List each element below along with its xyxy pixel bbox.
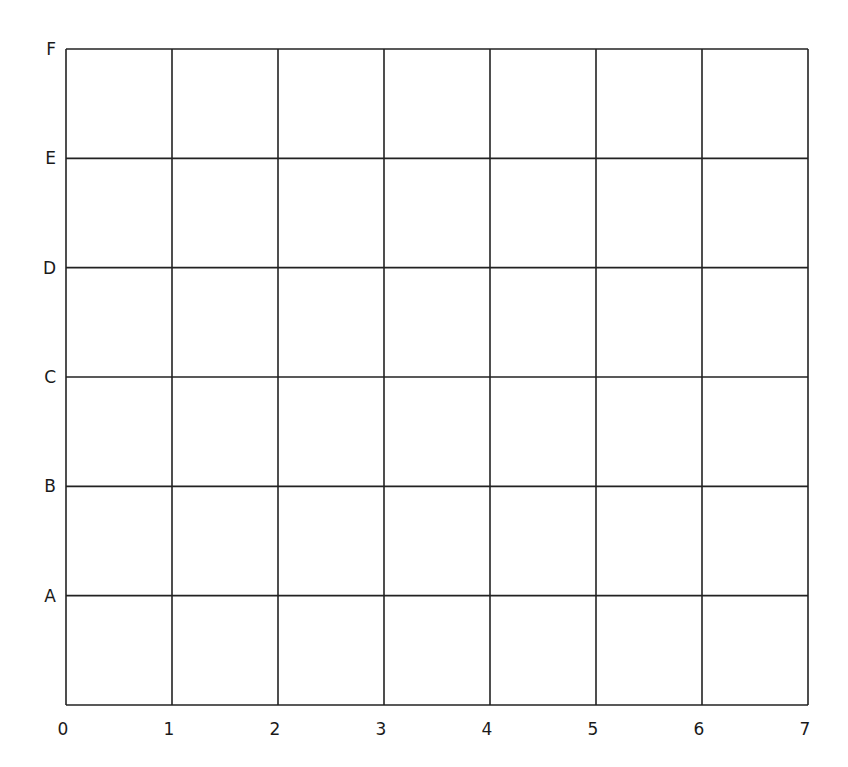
y-axis-label: B — [44, 478, 56, 495]
y-axis-label: A — [44, 587, 56, 604]
y-axis-label: E — [45, 150, 56, 167]
x-axis-label: 4 — [482, 721, 493, 738]
x-axis-label: 0 — [58, 721, 69, 738]
x-axis-label: 3 — [376, 721, 387, 738]
x-axis-label: 7 — [800, 721, 811, 738]
y-axis-label: F — [46, 41, 56, 58]
x-axis-label: 6 — [694, 721, 705, 738]
x-axis-label: 5 — [588, 721, 599, 738]
coordinate-grid — [0, 0, 848, 767]
x-axis-label: 2 — [270, 721, 281, 738]
y-axis-label: C — [44, 369, 56, 386]
x-axis-label: 1 — [164, 721, 175, 738]
y-axis-label: D — [43, 259, 56, 276]
